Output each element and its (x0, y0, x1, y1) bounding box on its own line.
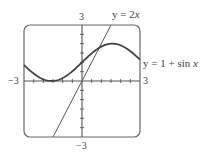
curve-label-var: x (193, 57, 198, 69)
line-label-prefix: y = 2 (112, 8, 135, 20)
line-label-y-equals-2x: y = 2x (112, 9, 140, 20)
line-label-var: x (135, 8, 140, 20)
x-min-tick-label: −3 (8, 76, 19, 86)
chart-plot (0, 0, 208, 155)
curve-label-prefix: y = 1 + sin (143, 57, 193, 69)
curve-label-y-equals-1-plus-sinx: y = 1 + sin x (143, 58, 198, 69)
x-max-tick-label: 3 (143, 76, 148, 86)
y-min-tick-label: −3 (76, 141, 87, 151)
y-max-tick-label: 3 (79, 12, 84, 22)
